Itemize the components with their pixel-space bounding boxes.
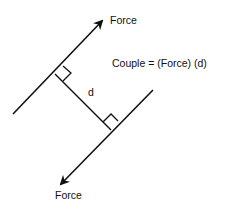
lower-force-arrow	[61, 90, 153, 184]
right-angle-marker-lower	[103, 114, 118, 122]
force-top-label: Force	[110, 14, 137, 26]
force-bottom-label: Force	[55, 189, 82, 201]
force-couple-diagram: Force Couple = (Force) (d) d Force	[0, 0, 226, 206]
right-angle-marker-upper	[63, 66, 71, 81]
upper-force-arrow	[13, 21, 102, 114]
distance-label: d	[88, 86, 94, 98]
equation-label: Couple = (Force) (d)	[112, 57, 207, 69]
